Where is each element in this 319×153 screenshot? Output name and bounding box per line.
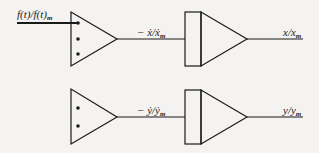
block-diagram: f(t)/f(t)m − ẋ/ẋm x/xm − ẏ/ẏm y/ym [0, 0, 319, 153]
summer-bottom-triangle [71, 89, 117, 144]
input-dot [76, 21, 80, 25]
label-ydot: − ẏ/ẏm [137, 105, 165, 118]
label-input-f: f(t)/f(t)m [17, 9, 52, 22]
label-xdot: − ẋ/ẋm [137, 27, 165, 40]
input-dot [76, 37, 80, 41]
diagram-canvas [0, 0, 319, 153]
amplifier-top-triangle [201, 12, 247, 66]
label-output-x: x/xm [283, 27, 301, 40]
input-dot [76, 106, 80, 110]
integrator-bottom-box [185, 90, 201, 144]
integrator-top-box [185, 12, 201, 66]
input-dot [76, 124, 80, 128]
label-output-y: y/ym [283, 105, 301, 118]
input-dot [76, 52, 80, 56]
amplifier-bottom-triangle [201, 90, 247, 144]
